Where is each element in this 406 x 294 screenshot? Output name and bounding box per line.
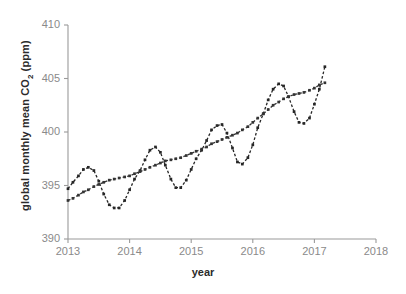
data-point-marker [97,180,100,183]
data-point-marker [210,142,213,145]
data-point-marker [77,194,80,197]
co2-chart-figure: global monthly mean CO2 (ppm) year 39039… [0,0,406,294]
data-point-marker [139,170,142,173]
data-point-marker [241,129,244,132]
data-point-marker [272,88,275,91]
data-point-marker [118,207,121,210]
data-point-marker [231,134,234,137]
data-point-marker [133,178,136,181]
data-point-marker [226,136,229,139]
data-point-marker [87,188,90,191]
data-point-marker [164,164,167,167]
data-point-marker [298,121,301,124]
data-point-marker [318,88,321,91]
series-line [68,83,325,201]
data-point-marker [190,152,193,155]
data-point-marker [67,187,70,190]
data-point-marker [313,103,316,106]
data-point-marker [293,110,296,113]
data-point-marker [170,178,173,181]
data-point-marker [205,146,208,149]
data-point-marker [185,179,188,182]
data-point-marker [179,156,182,159]
data-point-marker [123,199,126,202]
data-point-marker [324,81,327,84]
data-point-marker [144,158,147,161]
data-point-marker [318,84,321,87]
data-point-marker [247,125,250,128]
data-point-marker [195,150,198,153]
data-point-marker [200,148,203,151]
data-point-marker [324,65,327,68]
data-point-marker [236,132,239,135]
data-point-marker [231,147,234,150]
data-point-marker [221,123,224,126]
data-point-marker [308,117,311,120]
series-line [68,67,325,208]
data-point-marker [108,179,111,182]
data-series-1 [67,81,327,201]
data-point-marker [267,99,270,102]
data-point-marker [195,157,198,160]
data-point-marker [282,97,285,100]
data-point-marker [123,176,126,179]
data-point-marker [133,172,136,175]
data-point-marker [118,177,121,180]
data-point-marker [93,169,96,172]
data-point-marker [287,95,290,98]
data-point-marker [82,191,85,194]
data-point-marker [102,193,105,196]
data-point-marker [247,156,250,159]
data-point-marker [174,157,177,160]
data-point-marker [303,91,306,94]
data-point-marker [149,166,152,169]
data-point-marker [256,126,259,129]
data-point-marker [170,158,173,161]
data-point-marker [77,175,80,178]
data-point-marker [251,143,254,146]
data-point-marker [216,124,219,127]
data-point-marker [179,186,182,189]
data-point-marker [210,129,213,132]
data-point-marker [154,164,157,167]
plot-area [0,0,406,294]
data-point-marker [303,122,306,125]
data-point-marker [308,89,311,92]
data-point-marker [205,139,208,142]
data-point-marker [108,203,111,206]
data-point-marker [93,185,96,188]
data-point-marker [251,121,254,124]
data-point-marker [272,104,275,107]
data-point-marker [216,140,219,143]
data-point-marker [174,186,177,189]
data-point-marker [113,207,116,210]
data-point-marker [277,101,280,104]
data-point-marker [282,85,285,88]
data-point-marker [236,161,239,164]
data-point-marker [267,108,270,111]
data-point-marker [262,112,265,115]
data-point-marker [87,166,90,169]
data-point-marker [293,93,296,96]
data-point-marker [185,154,188,157]
data-point-marker [226,132,229,135]
data-series-0 [67,65,327,209]
data-point-marker [102,181,105,184]
data-point-marker [82,168,85,171]
data-point-marker [128,175,131,178]
data-point-marker [149,149,152,152]
data-point-marker [221,138,224,141]
data-point-marker [313,87,316,90]
data-point-marker [256,117,259,120]
data-point-marker [97,183,100,186]
data-point-marker [159,162,162,165]
data-point-marker [241,163,244,166]
data-point-marker [159,151,162,154]
data-point-marker [164,160,167,163]
data-point-marker [72,197,75,200]
data-point-marker [298,92,301,95]
data-point-marker [277,83,280,86]
data-point-marker [144,168,147,171]
data-point-marker [67,199,70,202]
data-point-marker [154,146,157,149]
